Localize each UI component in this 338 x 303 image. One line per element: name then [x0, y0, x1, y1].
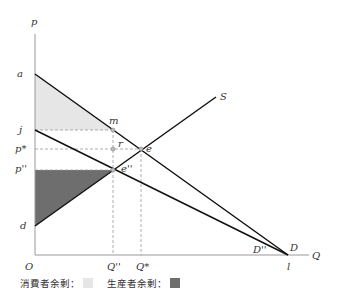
label-m: m [109, 115, 118, 126]
legend-producer-label: 生産者余剰： [107, 276, 167, 290]
label-pstar: p* [15, 143, 26, 154]
legend-producer-swatch [170, 278, 180, 288]
label-O: O [25, 261, 33, 272]
label-l: l [287, 261, 290, 272]
label-S: S [220, 91, 227, 102]
label-p: p [31, 16, 38, 27]
label-a: a [17, 68, 23, 79]
label-Ddd: D'' [252, 244, 267, 255]
legend: 消費者余剰： 生産者余剰： [20, 276, 194, 290]
label-Qstar: Q* [136, 261, 149, 272]
label-Q: Q [312, 250, 320, 261]
label-d: d [20, 220, 26, 231]
demand-curve-D [35, 74, 288, 255]
label-Qdd: Q'' [107, 261, 121, 272]
economics-diagram: p a j p* p'' d O Q m r e e'' S D D'' Q''… [0, 0, 338, 303]
point-edd [111, 168, 115, 172]
legend-consumer-label: 消費者余剰： [20, 276, 80, 290]
label-r: r [118, 138, 124, 149]
label-D: D [289, 242, 298, 253]
label-edd: e'' [121, 163, 132, 174]
point-m [111, 128, 115, 132]
label-j: j [17, 124, 22, 135]
point-e [139, 147, 143, 151]
label-e: e [146, 143, 152, 154]
point-r [111, 147, 115, 151]
legend-consumer-swatch [83, 278, 93, 288]
label-pdd: p'' [15, 163, 27, 174]
